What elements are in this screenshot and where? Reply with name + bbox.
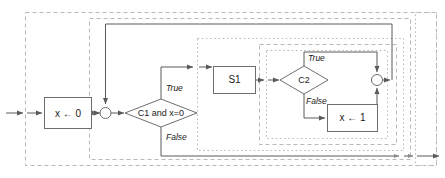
node-cond1-label: C1 and x=0 <box>138 108 184 118</box>
node-set1[interactable]: x ← 1 <box>328 105 378 132</box>
diagram-canvas: x ← 0 C1 and x=0 S1 C2 x ← 1 <box>0 0 445 178</box>
control-flow-diagram: x ← 0 C1 and x=0 S1 C2 x ← 1 <box>0 0 445 178</box>
node-merge1[interactable] <box>100 108 111 119</box>
node-set1-label: x ← 1 <box>339 112 366 123</box>
node-init-label: x ← 0 <box>55 108 82 119</box>
node-merge2-circle <box>372 75 383 86</box>
edge-label-cond2-false: False <box>306 96 327 106</box>
node-merge1-circle <box>100 108 111 119</box>
node-cond2[interactable]: C2 <box>280 66 328 94</box>
edge-label-cond1-false: False <box>166 132 187 142</box>
node-s1-label: S1 <box>228 74 241 85</box>
region-right-rail <box>416 13 437 166</box>
edge-label-cond1-true: True <box>166 83 183 93</box>
edge-label-cond2-true: True <box>308 53 325 63</box>
node-merge2[interactable] <box>372 75 383 86</box>
node-cond1[interactable]: C1 and x=0 <box>125 99 197 127</box>
node-s1[interactable]: S1 <box>214 67 256 94</box>
region-branch <box>198 39 404 151</box>
node-init[interactable]: x ← 0 <box>45 98 92 129</box>
node-cond2-label: C2 <box>298 75 310 85</box>
